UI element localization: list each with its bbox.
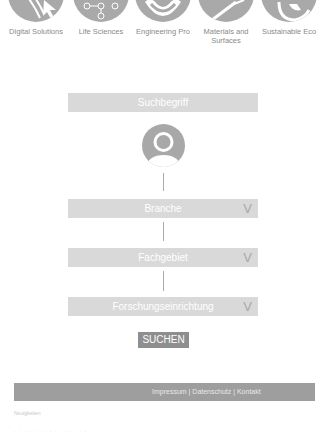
faint-text: · · · · · · · · · · · · · · ·: [14, 428, 87, 434]
connector-line: [163, 173, 164, 191]
cursor-icon: [8, 0, 64, 22]
leaf-icon: [261, 0, 317, 22]
chevron-down-icon: V: [243, 199, 252, 218]
branch-label: Branche: [144, 203, 181, 214]
search-term-label: Suchbegriff: [138, 97, 188, 108]
institution-label: Forschungseinrichtung: [112, 301, 213, 312]
connector-line: [163, 271, 164, 291]
category-engineering-pro[interactable]: Engineering Pro: [131, 0, 195, 36]
category-digital-solutions[interactable]: Digital Solutions: [4, 0, 68, 36]
category-label: Materials and Surfaces: [194, 27, 258, 45]
search-term-input[interactable]: Suchbegriff: [68, 93, 258, 112]
field-select[interactable]: Fachgebiet V: [68, 248, 258, 267]
molecule-icon: [73, 0, 129, 22]
institution-select[interactable]: Forschungseinrichtung V: [68, 297, 258, 316]
branch-select[interactable]: Branche V: [68, 199, 258, 218]
category-label: Sustainable Eco: [257, 27, 321, 36]
category-materials-surfaces[interactable]: Materials and Surfaces: [194, 0, 258, 45]
wand-icon: [198, 0, 254, 22]
chevron-down-icon: V: [243, 297, 252, 316]
category-label: Life Sciences: [69, 27, 133, 36]
footer-links[interactable]: Impressum | Datenschutz | Kontakt: [152, 383, 261, 401]
faint-text: Neuigkeiten: [14, 410, 40, 416]
footer-bar: Impressum | Datenschutz | Kontakt: [14, 383, 315, 401]
category-row: Digital Solutions Life Sciences Engineer…: [0, 0, 323, 56]
category-sustainable-eco[interactable]: Sustainable Eco: [257, 0, 321, 36]
user-avatar-icon: [142, 124, 185, 167]
category-life-sciences[interactable]: Life Sciences: [69, 0, 133, 36]
category-label: Digital Solutions: [4, 27, 68, 36]
connector-line: [163, 222, 164, 241]
smile-icon: [135, 0, 191, 22]
chevron-down-icon: V: [243, 248, 252, 267]
search-button[interactable]: SUCHEN: [138, 332, 189, 348]
field-label: Fachgebiet: [138, 252, 187, 263]
category-label: Engineering Pro: [131, 27, 195, 36]
